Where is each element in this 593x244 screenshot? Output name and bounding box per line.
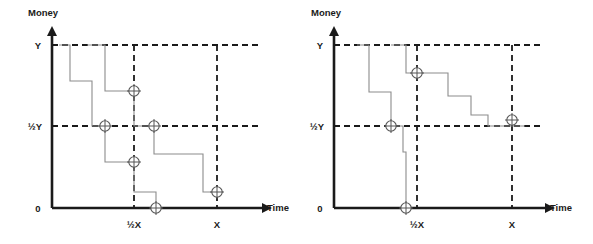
curve-slow-spender [391, 45, 525, 126]
y-tick-half: ½Y [28, 121, 43, 132]
left-chart-svg: Money Time Y ½Y 0 ½X X [0, 0, 296, 244]
x-tick-full: X [214, 219, 221, 230]
x-tick-half: ½X [410, 219, 425, 230]
y-tick-zero: 0 [35, 203, 40, 214]
marker-depletion-fast [149, 201, 163, 215]
marker-crossing-half-x-lower [127, 155, 141, 169]
marker-crossing-half-x-upper [127, 84, 141, 98]
y-axis-label: Money [311, 7, 342, 18]
x-axis-label: Time [550, 202, 572, 213]
y-tick-top: Y [35, 40, 42, 51]
y-tick-top: Y [317, 40, 324, 51]
marker-depletion-fast [399, 201, 413, 215]
y-tick-zero: 0 [317, 203, 322, 214]
y-tick-half: ½Y [310, 121, 325, 132]
x-tick-half: ½X [127, 219, 142, 230]
y-axis-label: Money [28, 7, 59, 18]
figure-container: Money Time Y ½Y 0 ½X X [0, 0, 593, 244]
marker-crossing-half-y-left [384, 119, 398, 133]
marker-crossing-half-y-left [98, 119, 112, 133]
curve-slow-spender [87, 45, 223, 192]
x-axis-label: Time [267, 202, 289, 213]
right-chart-svg: Money Time Y ½Y 0 ½X X [296, 0, 592, 244]
x-tick-full: X [509, 219, 516, 230]
marker-remaining-at-x [505, 113, 519, 127]
marker-crossing-half-x-upper [410, 66, 424, 80]
marker-crossing-half-x-half-y [147, 119, 161, 133]
y-axis-arrow [47, 26, 57, 36]
right-chart-panel: Money Time Y ½Y 0 ½X X [296, 0, 592, 244]
y-axis-arrow [329, 26, 339, 36]
marker-remaining-at-x [210, 185, 224, 199]
left-chart-panel: Money Time Y ½Y 0 ½X X [0, 0, 296, 244]
